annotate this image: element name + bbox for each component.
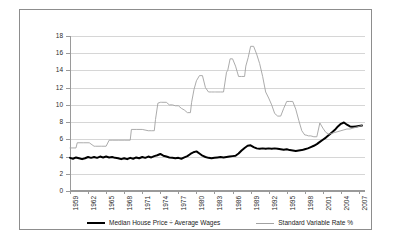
y-tick-label-18: 18 xyxy=(56,33,63,40)
x-tick-label-1995: 1995 xyxy=(290,196,297,210)
x-tick-2007 xyxy=(359,191,360,194)
x-tick-1959 xyxy=(70,191,71,194)
y-tick-label-2: 2 xyxy=(59,171,63,178)
legend-label-1: Standard Variable Rate % xyxy=(278,220,353,227)
x-tick-label-1962: 1962 xyxy=(91,196,98,210)
x-tick-1989 xyxy=(251,191,252,194)
x-tick-label-1968: 1968 xyxy=(127,196,134,210)
x-tick-1986 xyxy=(233,191,234,194)
y-tick-label-10: 10 xyxy=(56,102,63,109)
x-tick-2001 xyxy=(323,191,324,194)
x-tick-1965 xyxy=(106,191,107,194)
x-tick-label-1992: 1992 xyxy=(272,196,279,210)
x-tick-1983 xyxy=(214,191,215,194)
y-tick-label-6: 6 xyxy=(59,136,63,143)
x-tick-1998 xyxy=(305,191,306,194)
series-line-median-house-price-ratio xyxy=(70,123,362,160)
gridline-0 xyxy=(70,191,365,192)
chart-screenshot: 024681012141618 195919621965196819711974… xyxy=(0,0,398,248)
x-tick-label-1980: 1980 xyxy=(199,196,206,210)
y-tick-label-16: 16 xyxy=(56,50,63,57)
x-tick-label-1971: 1971 xyxy=(145,196,152,210)
x-tick-1968 xyxy=(124,191,125,194)
x-tick-1977 xyxy=(178,191,179,194)
series-line-standard-variable-rate xyxy=(70,46,362,148)
y-tick-label-4: 4 xyxy=(59,153,63,160)
x-tick-label-1986: 1986 xyxy=(236,196,243,210)
x-tick-label-1989: 1989 xyxy=(254,196,261,210)
plot-area: 024681012141618 195919621965196819711974… xyxy=(70,36,365,191)
x-tick-1971 xyxy=(142,191,143,194)
legend-item-0[interactable]: Median House Price ÷ Average Wages xyxy=(87,220,220,227)
x-tick-label-1959: 1959 xyxy=(73,196,80,210)
x-tick-label-1983: 1983 xyxy=(217,196,224,210)
y-tick-label-12: 12 xyxy=(56,84,63,91)
series-lines xyxy=(70,36,365,191)
legend-label-0: Median House Price ÷ Average Wages xyxy=(109,220,220,227)
chart-legend: Median House Price ÷ Average WagesStanda… xyxy=(70,216,370,230)
x-tick-label-1977: 1977 xyxy=(181,196,188,210)
chart-frame: 024681012141618 195919621965196819711974… xyxy=(19,9,372,230)
legend-item-1[interactable]: Standard Variable Rate % xyxy=(256,220,353,227)
x-tick-label-1998: 1998 xyxy=(308,196,315,210)
x-tick-1980 xyxy=(196,191,197,194)
x-tick-label-2007: 2007 xyxy=(362,196,369,210)
x-tick-1974 xyxy=(160,191,161,194)
x-tick-2004 xyxy=(341,191,342,194)
legend-swatch-icon-1 xyxy=(256,223,274,224)
clipped-title-strip xyxy=(0,0,398,7)
y-tick-label-8: 8 xyxy=(59,119,63,126)
x-tick-1995 xyxy=(287,191,288,194)
x-tick-label-1965: 1965 xyxy=(109,196,116,210)
legend-swatch-icon-0 xyxy=(87,222,105,224)
x-tick-label-1974: 1974 xyxy=(163,196,170,210)
x-tick-label-2004: 2004 xyxy=(344,196,351,210)
x-tick-1992 xyxy=(269,191,270,194)
y-tick-label-0: 0 xyxy=(59,188,63,195)
x-tick-1962 xyxy=(88,191,89,194)
y-tick-label-14: 14 xyxy=(56,67,63,74)
x-tick-label-2001: 2001 xyxy=(326,196,333,210)
